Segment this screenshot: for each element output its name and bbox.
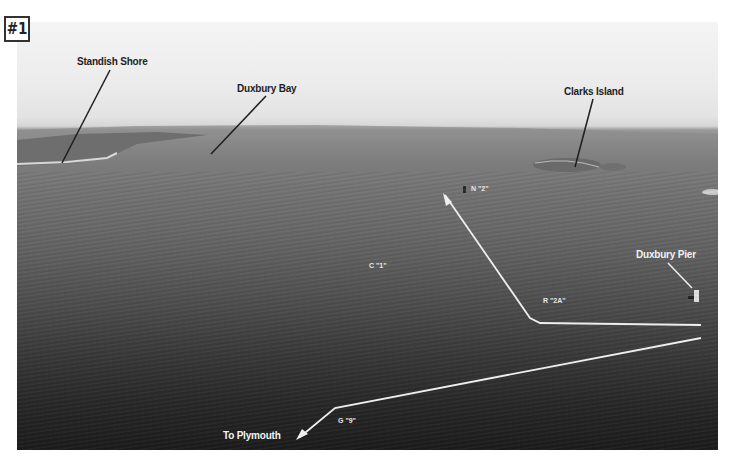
marker-g9: G "9" [338, 417, 356, 424]
standish-shore-leader-line [62, 70, 110, 163]
label-duxbury-pier: Duxbury Pier [636, 249, 696, 260]
label-duxbury-bay: Duxbury Bay [237, 83, 297, 94]
label-to-plymouth: To Plymouth [223, 430, 281, 441]
clarks-island-leader-line [575, 99, 593, 167]
duxbury-pier-leader-line [668, 263, 692, 288]
route-to-plymouth-line [300, 338, 701, 437]
duxbury-bay-leader-line [211, 96, 266, 154]
route-arrowhead-plymouth-icon [296, 429, 308, 440]
marker-r2a: R "2A" [543, 297, 566, 304]
label-standish-shore: Standish Shore [77, 56, 148, 67]
annotation-overlay [0, 0, 733, 463]
route-to-channel-line [445, 195, 701, 325]
marker-n2: N "2" [471, 185, 489, 192]
label-clarks-island: Clarks Island [564, 86, 624, 97]
marker-c1: C "1" [369, 262, 387, 269]
figure-number-badge: #1 [4, 16, 30, 42]
